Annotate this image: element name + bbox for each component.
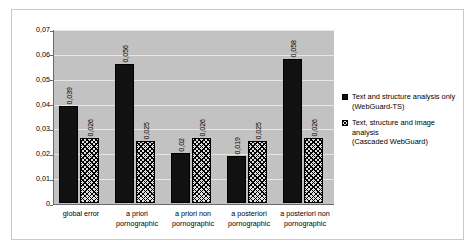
bar[interactable]: 0,026 bbox=[80, 138, 99, 203]
y-axis-tick-label: 0,01 bbox=[16, 175, 50, 183]
legend-item[interactable]: Text and structure analysis only(WebGuar… bbox=[342, 92, 462, 111]
y-axis: 00,010,020,030,040,050,060,07 bbox=[12, 30, 50, 206]
bar-group: 0,0580,026 bbox=[278, 29, 334, 203]
bar-value-label: 0,02 bbox=[177, 138, 184, 152]
x-axis-category-label: a posteriori nonpornographic bbox=[277, 209, 333, 228]
bar-value-label: 0,026 bbox=[310, 119, 317, 137]
x-axis: global errora prioripornographica priori… bbox=[53, 209, 334, 241]
bar-value-label: 0,039 bbox=[65, 87, 72, 105]
legend-label: Text, structure and image analysis(Casca… bbox=[352, 118, 462, 147]
x-axis-category-label: a posterioripornographic bbox=[221, 209, 277, 228]
bar-value-label: 0,025 bbox=[254, 122, 261, 140]
bar[interactable]: 0,026 bbox=[192, 138, 211, 203]
legend-item[interactable]: Text, structure and image analysis(Casca… bbox=[342, 118, 462, 147]
y-axis-tick-label: 0,03 bbox=[16, 125, 50, 133]
bar-group: 0,020,026 bbox=[166, 29, 222, 203]
bar-value-label: 0,026 bbox=[198, 119, 205, 137]
bar-value-label: 0,026 bbox=[86, 119, 93, 137]
y-axis-tick-label: 0,06 bbox=[16, 51, 50, 59]
bar-value-label: 0,019 bbox=[233, 137, 240, 155]
bar[interactable]: 0,025 bbox=[248, 141, 267, 203]
bar[interactable]: 0,039 bbox=[59, 106, 78, 203]
bar-value-label: 0,025 bbox=[142, 122, 149, 140]
legend-swatch-icon bbox=[342, 120, 348, 126]
bar[interactable]: 0,026 bbox=[304, 138, 323, 203]
bar-group: 0,0560,025 bbox=[110, 29, 166, 203]
y-axis-tick-label: 0,02 bbox=[16, 150, 50, 158]
y-axis-tick-label: 0,07 bbox=[16, 26, 50, 34]
legend-label: Text and structure analysis only(WebGuar… bbox=[352, 92, 455, 111]
chart-legend: Text and structure analysis only(WebGuar… bbox=[342, 92, 462, 154]
plot-area: 0,0390,0260,0560,0250,020,0260,0190,0250… bbox=[53, 30, 334, 205]
bar[interactable]: 0,025 bbox=[136, 141, 155, 203]
x-axis-category-label: global error bbox=[53, 209, 109, 219]
y-axis-tick-label: 0,04 bbox=[16, 101, 50, 109]
bar[interactable]: 0,056 bbox=[115, 64, 134, 203]
bar[interactable]: 0,019 bbox=[227, 156, 246, 203]
x-axis-category-label: a prioripornographic bbox=[109, 209, 165, 228]
bar[interactable]: 0,058 bbox=[283, 59, 302, 203]
chart-panel: 00,010,020,030,040,050,060,07 0,0390,026… bbox=[11, 9, 464, 240]
y-axis-tick-label: 0 bbox=[16, 200, 50, 208]
bar-value-label: 0,056 bbox=[121, 45, 128, 63]
bar-group: 0,0190,025 bbox=[222, 29, 278, 203]
bar-group: 0,0390,026 bbox=[54, 29, 110, 203]
x-axis-category-label: a priori nonpornographic bbox=[165, 209, 221, 228]
bar[interactable]: 0,02 bbox=[171, 153, 190, 203]
bar-value-label: 0,058 bbox=[289, 40, 296, 58]
y-axis-tick-label: 0,05 bbox=[16, 76, 50, 84]
legend-swatch-icon bbox=[342, 94, 348, 100]
